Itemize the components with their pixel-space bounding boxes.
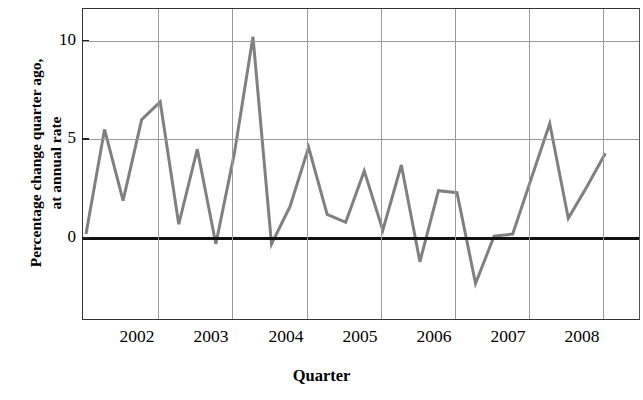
y-axis-tick-mark	[82, 138, 89, 140]
x-axis-tick-label: 2006	[397, 326, 471, 347]
y-axis-tick-labels: 0510	[44, 0, 76, 400]
horizontal-gridline	[83, 41, 639, 42]
plot-area	[82, 8, 640, 320]
x-axis-tick-label: 2003	[174, 326, 248, 347]
vertical-gridline	[603, 9, 604, 319]
y-axis-tick-label: 0	[48, 228, 76, 245]
x-axis-tick-label: 2002	[100, 326, 174, 347]
y-axis-tick-label: 10	[48, 31, 76, 48]
y-axis-tick-mark	[82, 40, 89, 42]
vertical-gridline	[381, 9, 382, 319]
x-axis-title: Quarter	[0, 366, 643, 386]
horizontal-gridline	[83, 139, 639, 140]
x-axis-tick-label: 2004	[249, 326, 323, 347]
chart-container: Percentage change quarter ago, at annual…	[0, 0, 643, 400]
data-series-line	[83, 9, 640, 320]
vertical-gridline	[529, 9, 530, 319]
y-axis-title-line1: Percentage change quarter ago,	[26, 59, 46, 268]
x-axis-tick-label: 2007	[471, 326, 545, 347]
zero-reference-line	[83, 237, 639, 240]
x-axis-tick-label: 2008	[545, 326, 619, 347]
vertical-gridline	[232, 9, 233, 319]
vertical-gridline	[307, 9, 308, 319]
y-axis-tick-label: 5	[48, 129, 76, 146]
y-axis-tick-mark	[82, 237, 89, 239]
x-axis-tick-label: 2005	[323, 326, 397, 347]
x-axis-tick-labels: 2002200320042005200620072008	[82, 326, 640, 352]
vertical-gridline	[158, 9, 159, 319]
vertical-gridline	[455, 9, 456, 319]
